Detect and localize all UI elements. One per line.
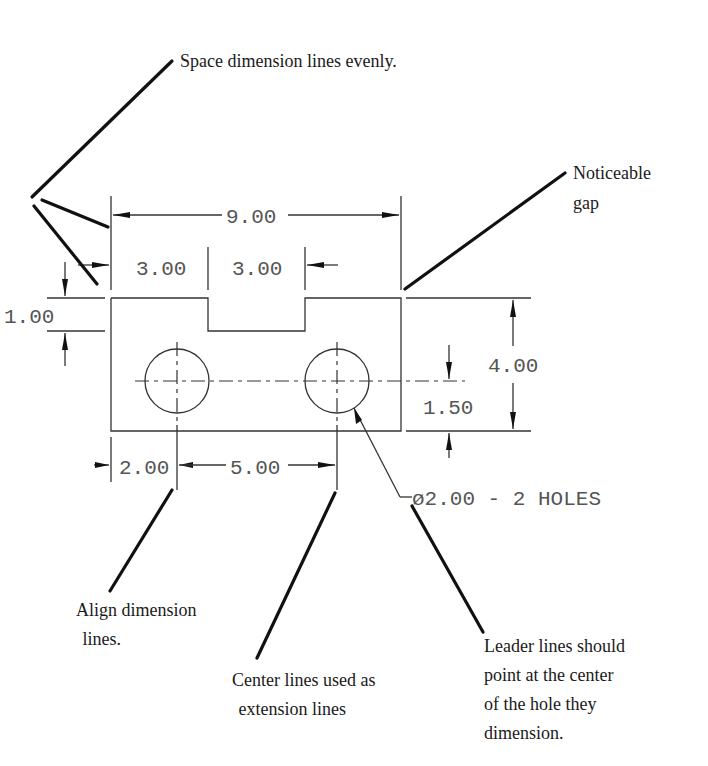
part-outline — [111, 298, 401, 431]
dim-4-00: 4.00 — [488, 355, 538, 378]
hole-callout-text: ø2.00 - 2 HOLES — [412, 488, 601, 511]
dim-5-00: 5.00 — [230, 457, 280, 480]
note-center-lines-1: Center lines used as — [232, 670, 375, 690]
dim-3-00-left: 3.00 — [136, 258, 186, 281]
annotation-leaders — [32, 61, 565, 658]
note-space-evenly: Space dimension lines evenly. — [180, 51, 397, 71]
note-leader-1: Leader lines should — [484, 636, 625, 656]
note-leader-3: of the hole they — [484, 694, 596, 714]
dim-1-00: 1.00 — [4, 306, 54, 329]
center-lines — [135, 342, 465, 490]
dim-9-00: 9.00 — [226, 206, 276, 229]
dimension-notch-depth — [47, 262, 105, 366]
dim-1-50: 1.50 — [423, 397, 473, 420]
note-center-lines-2: extension lines — [234, 699, 346, 719]
hole-callout-leader — [354, 408, 412, 497]
drawing-canvas: 9.00 3.00 3.00 1.00 4.00 1.50 — [0, 0, 708, 766]
dim-2-00: 2.00 — [119, 457, 169, 480]
note-leader-4: dimension. — [484, 723, 564, 743]
note-align-1: Align dimension — [76, 600, 197, 620]
dim-3-00-notch: 3.00 — [232, 258, 282, 281]
note-noticeable-gap-2: gap — [573, 193, 599, 213]
note-align-2: lines. — [78, 629, 121, 649]
dimension-step-widths — [78, 247, 338, 290]
note-leader-2: point at the center — [484, 665, 613, 685]
note-noticeable-gap-1: Noticeable — [573, 163, 651, 183]
